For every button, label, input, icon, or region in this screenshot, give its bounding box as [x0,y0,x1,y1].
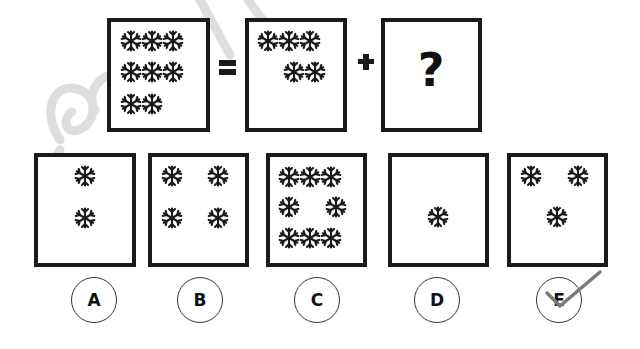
snowflake-icon [278,227,300,249]
snowflake-icon [278,30,300,52]
snowflake-icon [257,30,279,52]
snowflake-icon [120,93,142,115]
option-a-button[interactable]: A [71,277,117,323]
snowflake-icon [520,165,542,187]
snowflake-icon [74,207,96,229]
option-b-button[interactable]: B [177,277,223,323]
option-d-button[interactable]: D [414,277,460,323]
snowflake-icon [567,165,589,187]
snowflake-icon [427,206,449,228]
snowflake-icon [320,166,342,188]
snowflake-icon [283,61,305,83]
snowflake-icon [546,206,568,228]
snowflake-icon [299,227,321,249]
option-a-label: A [87,290,100,310]
snowflake-icon [120,61,142,83]
snowflake-icon [141,61,163,83]
snowflake-icon [74,165,96,187]
option-e-label: E [553,290,565,310]
snowflake-icon [162,30,184,52]
snowflake-icon [120,30,142,52]
snowflake-icon [325,196,347,218]
snowflake-icon [162,61,184,83]
snowflake-icon [299,166,321,188]
snowflake-icon [141,30,163,52]
option-d-label: D [430,290,444,310]
snowflake-icon [141,93,163,115]
snowflake-icon [299,30,321,52]
snowflake-icon [207,207,229,229]
snowflake-icon [278,166,300,188]
snowflake-icon [161,207,183,229]
snowflake-icon [161,165,183,187]
option-c-label: C [311,290,323,310]
question-mark: ? [418,47,445,93]
snowflake-icon [278,196,300,218]
snowflake-icon [304,61,326,83]
snowflake-icon [207,165,229,187]
snowflake-icon [320,227,342,249]
option-b-label: B [194,290,207,310]
option-c-button[interactable]: C [294,277,340,323]
option-e-button[interactable]: E [536,277,582,323]
